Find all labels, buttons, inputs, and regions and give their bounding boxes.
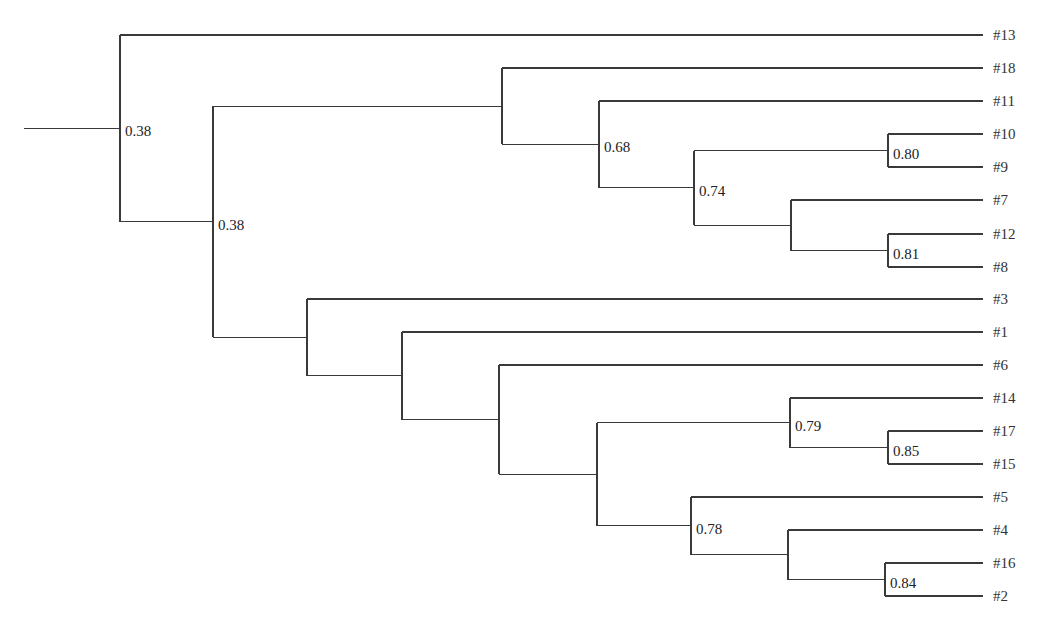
- node-similarity-label: 0.85: [893, 443, 919, 459]
- leaf-label: #8: [993, 259, 1008, 275]
- node-similarity-label: 0.38: [125, 123, 151, 139]
- leaf-label: #16: [993, 555, 1016, 571]
- leaf-label: #12: [993, 226, 1016, 242]
- leaf-label: #1: [993, 324, 1008, 340]
- leaf-label: #4: [993, 522, 1009, 538]
- leaf-label: #14: [993, 390, 1016, 406]
- leaf-label: #11: [993, 93, 1015, 109]
- node-similarity-label: 0.81: [893, 246, 919, 262]
- leaf-label: #10: [993, 126, 1016, 142]
- leaf-labels: #13#18#11#10#9#7#12#8#3#1#6#14#17#15#5#4…: [993, 27, 1016, 604]
- node-similarity-label: 0.78: [696, 521, 722, 537]
- node-similarity-label: 0.68: [604, 139, 630, 155]
- node-similarity-labels: 0.380.380.680.740.800.810.790.850.780.84: [125, 123, 919, 590]
- leaf-label: #13: [993, 27, 1016, 43]
- leaf-label: #6: [993, 357, 1009, 373]
- dendrogram: 0.380.380.680.740.800.810.790.850.780.84…: [0, 0, 1045, 623]
- node-similarity-label: 0.84: [890, 575, 917, 591]
- leaf-label: #15: [993, 456, 1016, 472]
- leaf-label: #2: [993, 588, 1008, 604]
- node-similarity-label: 0.80: [893, 146, 919, 162]
- node-similarity-label: 0.38: [218, 217, 244, 233]
- leaf-label: #17: [993, 423, 1016, 439]
- dendrogram-branches: [24, 35, 983, 596]
- node-similarity-label: 0.74: [699, 183, 726, 199]
- leaf-label: #18: [993, 60, 1016, 76]
- leaf-label: #3: [993, 291, 1008, 307]
- leaf-label: #7: [993, 192, 1009, 208]
- leaf-label: #5: [993, 489, 1008, 505]
- leaf-label: #9: [993, 159, 1008, 175]
- node-similarity-label: 0.79: [795, 418, 821, 434]
